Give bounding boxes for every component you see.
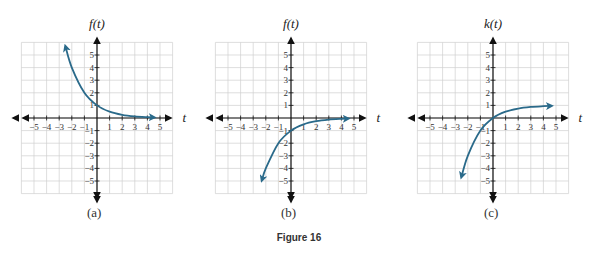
x-tick-label: −4 — [236, 122, 246, 132]
y-axis-label: f(t) — [283, 16, 299, 31]
x-axis-label: t — [377, 110, 381, 125]
y-tick-label: −5 — [84, 176, 94, 186]
y-tick-label: −2 — [278, 138, 288, 148]
x-tick-label: −2 — [261, 122, 271, 132]
y-tick-label: 4 — [284, 63, 289, 73]
x-tick-label: −3 — [54, 122, 64, 132]
x-tick-label: 1 — [503, 122, 508, 132]
x-axis-label: t — [183, 110, 187, 125]
y-tick-label: 5 — [284, 50, 289, 60]
x-tick-label: 4 — [145, 122, 150, 132]
x-tick-label: −2 — [67, 122, 77, 132]
graph-b-svg: −5−4−3−2−112345−5−4−3−2−112345f(t)t — [194, 0, 394, 230]
x-tick-label: 5 — [158, 122, 163, 132]
y-axis-label: k(t) — [484, 16, 502, 31]
x-axis-label: t — [579, 110, 583, 125]
y-tick-label: −4 — [84, 163, 94, 173]
y-tick-label: 1 — [486, 100, 491, 110]
y-tick-label: 2 — [284, 88, 289, 98]
graph-panel-b: −5−4−3−2−112345−5−4−3−2−112345f(t)t — [194, 0, 394, 230]
x-tick-label: −5 — [223, 122, 233, 132]
y-tick-label: −2 — [84, 138, 94, 148]
x-tick-label: 5 — [352, 122, 357, 132]
y-tick-label: 3 — [90, 75, 95, 85]
graph-panel-c: −5−4−3−2−112345−5−4−3−2−112345k(t)t — [396, 0, 596, 230]
y-tick-label: −4 — [480, 163, 490, 173]
y-tick-label: 5 — [486, 50, 491, 60]
curve-c — [462, 106, 551, 177]
panel-label-b: (b) — [281, 205, 296, 221]
y-tick-label: −3 — [480, 151, 490, 161]
y-tick-label: −1 — [84, 126, 94, 136]
y-tick-label: 5 — [90, 50, 95, 60]
y-axis-label: f(t) — [89, 16, 105, 31]
y-tick-label: 4 — [486, 63, 491, 73]
y-tick-label: −5 — [278, 176, 288, 186]
y-tick-label: 4 — [90, 63, 95, 73]
x-tick-label: 5 — [554, 122, 559, 132]
x-tick-label: −5 — [425, 122, 435, 132]
y-tick-label: −5 — [480, 176, 490, 186]
y-tick-label: 1 — [284, 100, 289, 110]
x-tick-label: 4 — [339, 122, 344, 132]
x-tick-label: 3 — [529, 122, 534, 132]
x-tick-label: 4 — [541, 122, 546, 132]
x-tick-label: −2 — [463, 122, 473, 132]
x-tick-label: 1 — [107, 122, 112, 132]
x-tick-label: 3 — [133, 122, 138, 132]
y-tick-label: 2 — [90, 88, 95, 98]
y-tick-label: 3 — [284, 75, 289, 85]
panel-label-a: (a) — [87, 205, 101, 221]
x-tick-label: −4 — [42, 122, 52, 132]
figure-caption: Figure 16 — [0, 232, 598, 243]
x-tick-label: 2 — [314, 122, 319, 132]
x-tick-label: −4 — [438, 122, 448, 132]
x-tick-label: −3 — [248, 122, 258, 132]
x-tick-label: 2 — [516, 122, 521, 132]
y-tick-label: 3 — [486, 75, 491, 85]
y-tick-label: −4 — [278, 163, 288, 173]
y-tick-label: −3 — [84, 151, 94, 161]
x-tick-label: −5 — [29, 122, 39, 132]
graph-a-svg: −5−4−3−2−112345−5−4−3−2−112345f(t)t — [0, 0, 200, 230]
graph-c-svg: −5−4−3−2−112345−5−4−3−2−112345k(t)t — [396, 0, 596, 230]
x-tick-label: 3 — [327, 122, 332, 132]
y-tick-label: −3 — [278, 151, 288, 161]
panel-label-c: (c) — [484, 205, 498, 221]
x-tick-label: 2 — [120, 122, 125, 132]
y-tick-label: −2 — [480, 138, 490, 148]
x-tick-label: −3 — [450, 122, 460, 132]
graph-panel-a: −5−4−3−2−112345−5−4−3−2−112345f(t)t — [0, 0, 200, 230]
y-tick-label: 2 — [486, 88, 491, 98]
y-tick-label: −1 — [480, 126, 490, 136]
